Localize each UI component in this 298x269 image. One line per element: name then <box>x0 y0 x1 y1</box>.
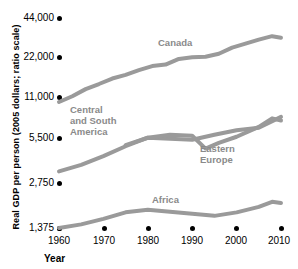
series-label-eastern-europe: Eastern Europe <box>200 143 235 165</box>
series-label-line: Europe <box>200 154 235 165</box>
chart-container: Real GDP per person (2005 dollars; ratio… <box>0 0 298 269</box>
series-label-line: and South <box>70 115 116 126</box>
series-label-canada: Canada <box>158 37 192 48</box>
series-label-line: Eastern <box>200 143 235 154</box>
series-label-africa: Africa <box>152 194 179 205</box>
series-label-line: America <box>70 126 116 137</box>
series-line-africa <box>59 202 281 228</box>
series-label-central-south-america: Central and South America <box>70 104 116 137</box>
plot-area <box>0 0 298 269</box>
series-label-line: Central <box>70 104 116 115</box>
